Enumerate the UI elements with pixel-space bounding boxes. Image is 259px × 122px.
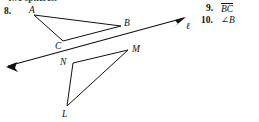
- triangle-lmn: [67, 50, 128, 106]
- vertex-label-c: C: [55, 42, 61, 52]
- vertex-label-a: A: [29, 6, 35, 16]
- exercise-9-answer-segment-bc: BC: [221, 3, 233, 15]
- vertex-label-l: L: [62, 110, 67, 120]
- exercise-number-9: 9.: [206, 3, 213, 13]
- vertex-label-m: M: [132, 45, 140, 55]
- arrowhead-left: [6, 62, 18, 72]
- line-label-ell: ℓ: [186, 22, 190, 32]
- triangle-abc: [34, 15, 121, 41]
- vertex-label-b: B: [124, 19, 130, 29]
- exercise-10-answer-angle-b: ∠B: [221, 15, 235, 26]
- exercise-number-10: 10.: [201, 15, 213, 25]
- line-ell: [6, 17, 186, 72]
- arrowhead-right: [174, 17, 186, 27]
- vertex-label-n: N: [60, 58, 66, 68]
- textbook-page-excerpt: two spheres. 8. A B C M N L ℓ 9. BC 10. …: [0, 0, 259, 122]
